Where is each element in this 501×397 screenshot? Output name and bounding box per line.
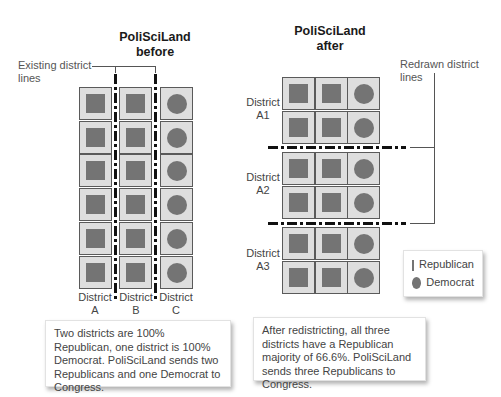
voter-cell — [160, 222, 193, 255]
republican-square-icon — [322, 84, 341, 103]
district-label-letter: C — [151, 304, 201, 317]
district-label-a3: District A3 — [243, 247, 283, 273]
legend: Republican Democrat — [403, 250, 483, 297]
republican-square-icon — [86, 229, 105, 248]
voter-cell — [79, 222, 112, 255]
voter-cell — [282, 77, 315, 110]
voter-cell — [119, 121, 152, 154]
district-label-a1: District A1 — [243, 96, 283, 122]
before-title-line1: PoliSciLand — [95, 30, 215, 45]
annotation-leader-line — [92, 66, 156, 67]
after-title: PoliSciLand after — [270, 24, 390, 54]
district-label-text: District — [243, 247, 283, 260]
existing-lines-annotation: Existing district lines — [18, 59, 108, 84]
district-label-letter: A2 — [243, 184, 283, 197]
bracket-tick-1 — [410, 147, 435, 148]
annotation-text-line2: lines — [400, 71, 500, 84]
republican-square-icon — [126, 263, 145, 282]
voter-cell — [282, 261, 315, 294]
voter-cell — [282, 111, 315, 144]
democrat-circle-icon — [354, 234, 374, 254]
annotation-text-line2: lines — [18, 72, 108, 85]
democrat-circle-icon — [354, 84, 374, 104]
democrat-circle-icon — [412, 277, 421, 289]
voter-cell — [119, 222, 152, 255]
voter-cell — [282, 227, 315, 260]
republican-square-icon — [86, 161, 105, 180]
republican-square-icon — [322, 118, 341, 137]
annotation-text-line1: Redrawn district — [400, 58, 500, 71]
bracket-vertical — [434, 73, 435, 224]
republican-square-icon — [412, 260, 414, 271]
republican-square-icon — [322, 193, 341, 212]
voter-cell — [347, 227, 380, 260]
district-label-letter: A3 — [243, 260, 283, 273]
legend-label: Democrat — [426, 276, 474, 290]
republican-square-icon — [126, 229, 145, 248]
republican-square-icon — [126, 94, 145, 113]
voter-cell — [347, 111, 380, 144]
republican-square-icon — [86, 263, 105, 282]
republican-square-icon — [322, 268, 341, 287]
voter-cell — [347, 152, 380, 185]
bracket-tick-2 — [410, 223, 435, 224]
before-caption: Two districts are 100% Republican, one d… — [45, 320, 231, 387]
before-title: PoliSciLand before — [95, 30, 215, 60]
republican-square-icon — [289, 234, 308, 253]
democrat-circle-icon — [167, 229, 187, 249]
democrat-circle-icon — [167, 94, 187, 114]
voter-cell — [315, 227, 348, 260]
voter-cell — [347, 77, 380, 110]
district-line-ab — [114, 74, 117, 300]
republican-square-icon — [126, 128, 145, 147]
voter-cell — [79, 154, 112, 187]
voter-cell — [315, 186, 348, 219]
legend-item-democrat: Democrat — [412, 274, 474, 292]
after-title-line2: after — [270, 39, 390, 54]
voter-cell — [282, 152, 315, 185]
voter-cell — [347, 261, 380, 294]
voter-cell — [315, 261, 348, 294]
democrat-circle-icon — [354, 118, 374, 138]
district-label-text: District — [243, 96, 283, 109]
district-label-c: District C — [151, 291, 201, 317]
after-title-line1: PoliSciLand — [270, 24, 390, 39]
voter-cell — [160, 154, 193, 187]
voter-cell — [119, 256, 152, 289]
voter-cell — [119, 154, 152, 187]
republican-square-icon — [126, 161, 145, 180]
democrat-circle-icon — [354, 159, 374, 179]
annotation-tick-1 — [115, 66, 116, 73]
voter-cell — [119, 188, 152, 221]
voter-cell — [347, 186, 380, 219]
district-label-text: District — [151, 291, 201, 304]
democrat-circle-icon — [167, 263, 187, 283]
republican-square-icon — [289, 159, 308, 178]
voter-cell — [160, 188, 193, 221]
voter-cell — [315, 152, 348, 185]
voter-cell — [79, 188, 112, 221]
voter-cell — [282, 186, 315, 219]
district-label-text: District — [243, 171, 283, 184]
legend-label: Republican — [419, 258, 474, 272]
redrawn-lines-annotation: Redrawn district lines — [400, 58, 500, 83]
democrat-circle-icon — [354, 193, 374, 213]
democrat-circle-icon — [354, 268, 374, 288]
republican-square-icon — [289, 118, 308, 137]
republican-square-icon — [86, 195, 105, 214]
district-label-letter: A1 — [243, 109, 283, 122]
democrat-circle-icon — [167, 161, 187, 181]
before-title-line2: before — [95, 45, 215, 60]
legend-item-republican: Republican — [412, 256, 474, 274]
voter-cell — [160, 256, 193, 289]
district-line-a1-a2 — [268, 146, 406, 149]
district-line-bc — [154, 74, 157, 300]
republican-square-icon — [322, 159, 341, 178]
voter-cell — [79, 87, 112, 120]
voter-cell — [119, 87, 152, 120]
republican-square-icon — [289, 84, 308, 103]
voter-cell — [315, 77, 348, 110]
voter-cell — [79, 256, 112, 289]
republican-square-icon — [289, 193, 308, 212]
district-line-a2-a3 — [268, 222, 406, 225]
